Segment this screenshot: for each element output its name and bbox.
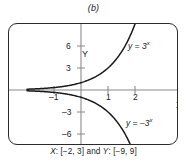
curve-label-positive-exponent: x [147,40,150,46]
y-tick-label-minus6: –6 [62,129,71,139]
curve-label-negative: y = –3x [126,117,152,128]
y-tick-label-3: 3 [66,63,71,73]
figure-container: (b) Y X –1 1 2 6 [0,0,187,162]
plot-frame: Y X –1 1 2 6 3 –3 –6 [8,23,178,145]
x-tick-label-2: 2 [133,92,138,102]
bottom-caption-y-range: : [−9, 9] [108,147,136,156]
figure-top-caption: (b) [0,3,187,13]
curve-label-negative-exponent: x [149,117,152,123]
figure-bottom-caption: X: [−2, 3] and Y: [−9, 9] [0,147,187,156]
curve-label-negative-text: y = –3 [126,118,149,128]
curve-label-positive: y = 3x [128,40,150,51]
y-tick-label-minus3: –3 [62,107,71,117]
x-tick-label-1: 1 [106,92,111,102]
x-axis-label: X [176,100,178,110]
x-tick-label-minus1: –1 [49,92,58,102]
plot-svg [9,24,178,145]
curve-label-positive-text: y = 3 [128,41,147,51]
bottom-caption-x-range: : [−2, 3] and [56,147,103,156]
y-tick-label-6: 6 [66,41,71,51]
y-axis-label: Y [82,49,88,59]
